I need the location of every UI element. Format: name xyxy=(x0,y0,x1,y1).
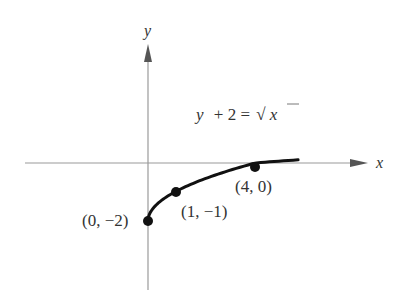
point-0-neg2 xyxy=(143,216,153,226)
x-axis-label: x xyxy=(375,154,383,171)
equation-radical: √ xyxy=(256,105,266,124)
point-label-4-0: (4, 0) xyxy=(235,177,272,196)
point-4-0 xyxy=(250,162,260,172)
x-axis-arrow-icon xyxy=(350,159,368,167)
point-label-0-neg2: (0, −2) xyxy=(82,211,128,230)
svg-text:y + 2 = √ x: y + 2 = √ x xyxy=(194,105,278,124)
equation-label: y + 2 = √ x xyxy=(194,104,299,124)
equation-lhs-rest: + 2 = xyxy=(214,105,250,124)
graph-canvas: x y y + 2 = √ x (0, −2) (1, −1) (4, 0) xyxy=(0,0,414,307)
equation-lhs-var: y xyxy=(194,105,204,124)
y-axis-label: y xyxy=(142,22,152,40)
point-label-1-neg1: (1, −1) xyxy=(181,202,227,221)
point-1-neg1 xyxy=(171,187,181,197)
y-axis-arrow-icon xyxy=(144,44,152,62)
equation-radicand: x xyxy=(269,105,278,124)
